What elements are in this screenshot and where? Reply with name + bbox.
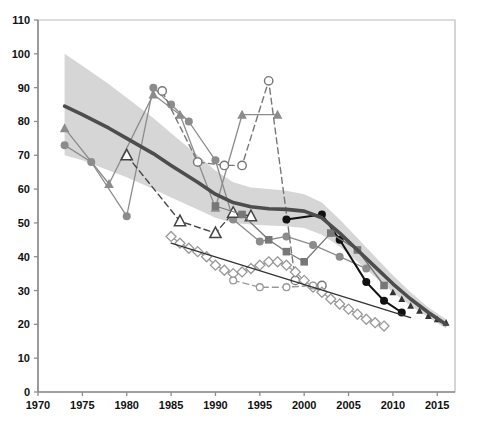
data-point-marker	[87, 158, 95, 166]
x-axis-tick-label: 1980	[114, 399, 138, 411]
data-point-marker	[256, 284, 263, 291]
data-point-marker	[230, 277, 237, 284]
y-axis-tick-label: 50	[18, 217, 30, 229]
data-point-marker	[265, 236, 273, 244]
data-point-marker	[212, 202, 220, 210]
data-point-marker	[309, 241, 317, 249]
x-axis-tick-label: 2015	[425, 399, 449, 411]
x-axis-tick-label: 1985	[159, 399, 183, 411]
data-point-marker	[362, 278, 370, 286]
data-point-marker	[174, 215, 185, 226]
data-point-marker	[352, 309, 362, 319]
data-point-marker	[256, 238, 264, 246]
y-axis-tick-label: 40	[18, 251, 30, 263]
data-point-marker	[282, 216, 290, 224]
confidence-band	[65, 54, 447, 329]
data-point-marker	[185, 117, 193, 125]
x-axis-tick-label: 1990	[203, 399, 227, 411]
chart-svg: 0102030405060708090100110197019751980198…	[0, 0, 481, 437]
data-point-marker	[327, 229, 335, 237]
data-point-marker	[344, 304, 354, 314]
data-point-marker	[300, 258, 308, 266]
x-axis-tick-label: 1975	[70, 399, 94, 411]
data-point-marker	[158, 87, 166, 95]
y-axis-tick-label: 70	[18, 149, 30, 161]
data-point-marker	[283, 284, 290, 291]
data-point-marker	[211, 156, 219, 164]
data-point-marker	[149, 84, 157, 92]
data-point-marker	[175, 110, 185, 119]
x-axis-tick-label: 1995	[248, 399, 272, 411]
data-point-marker	[194, 158, 202, 166]
y-axis-tick-label: 20	[18, 318, 30, 330]
y-axis-tick-label: 90	[18, 82, 30, 94]
data-point-marker	[210, 227, 221, 238]
data-point-marker	[335, 299, 345, 309]
y-axis-tick-label: 30	[18, 285, 30, 297]
data-point-marker	[380, 282, 388, 290]
chart-container: 0102030405060708090100110197019751980198…	[0, 0, 481, 437]
data-point-marker	[61, 141, 69, 149]
y-axis-tick-label: 0	[24, 386, 30, 398]
data-point-marker	[123, 212, 131, 220]
y-axis-tick-label: 10	[18, 352, 30, 364]
x-axis-tick-label: 2000	[292, 399, 316, 411]
data-point-marker	[264, 77, 272, 85]
data-point-marker	[238, 211, 246, 219]
data-point-marker	[220, 161, 228, 169]
x-axis-tick-label: 2010	[381, 399, 405, 411]
x-axis-tick-label: 1970	[26, 399, 50, 411]
data-point-marker	[336, 253, 344, 261]
data-point-marker	[238, 161, 246, 169]
data-point-marker	[283, 248, 291, 256]
y-axis-tick-label: 80	[18, 115, 30, 127]
y-axis-tick-label: 100	[12, 48, 30, 60]
x-axis-tick-label: 2005	[336, 399, 360, 411]
data-point-marker	[166, 231, 176, 241]
data-point-marker	[380, 297, 388, 305]
y-axis-tick-label: 110	[12, 14, 30, 26]
confidence-band-area	[65, 54, 447, 329]
y-axis-tick-label: 60	[18, 183, 30, 195]
